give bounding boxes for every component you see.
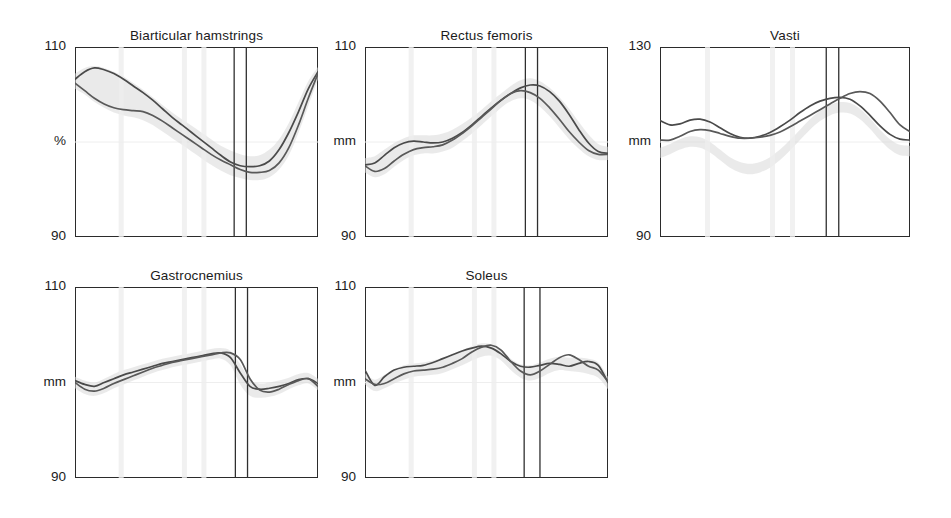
scan-artifact-soleus-0 [409, 287, 414, 478]
plot-svg-holder-soleus [365, 287, 608, 478]
gait-muscle-length-figure: Biarticular hamstrings110%90Rectus femor… [0, 0, 951, 518]
y-axis-unit-label-soleus: mm [320, 374, 356, 389]
panel-title-soleus: Soleus [365, 268, 608, 283]
scan-artifact-soleus-2 [491, 287, 496, 478]
y-axis-top-label-soleus: 110 [320, 278, 356, 293]
panel-soleus: Soleus110mm90 [0, 0, 951, 518]
scan-artifact-soleus-1 [472, 287, 477, 478]
y-axis-bottom-label-soleus: 90 [320, 469, 356, 484]
plot-area-soleus [365, 287, 608, 478]
